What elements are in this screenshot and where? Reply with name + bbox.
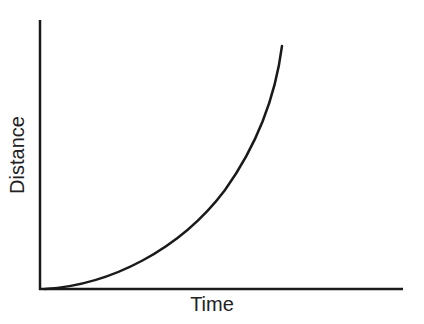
chart-canvas bbox=[0, 0, 424, 324]
y-axis-label: Distance bbox=[6, 116, 29, 194]
data-curve bbox=[45, 46, 282, 289]
x-axis-label: Time bbox=[0, 293, 424, 316]
